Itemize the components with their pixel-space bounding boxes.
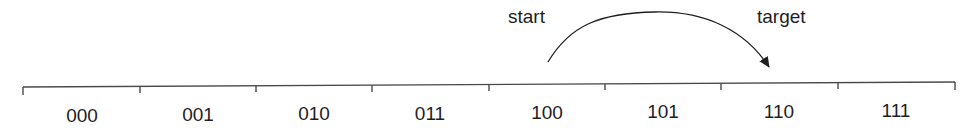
cell-label-011: 011 [415,103,445,124]
target-label: target [757,6,806,27]
cell-label-010: 010 [298,103,330,124]
cell-label-111: 111 [882,100,911,121]
cell-labels: 000 001 010 011 100 101 110 111 [66,100,910,126]
cell-label-101: 101 [647,101,679,122]
number-line-diagram: 000 001 010 011 100 101 110 111 start ta… [0,0,973,130]
cell-label-100: 100 [531,102,563,123]
jump-arrow-icon [548,12,769,67]
cell-label-110: 110 [764,101,794,122]
start-label: start [508,6,546,27]
cell-label-000: 000 [66,105,98,126]
cell-label-001: 001 [182,104,214,125]
